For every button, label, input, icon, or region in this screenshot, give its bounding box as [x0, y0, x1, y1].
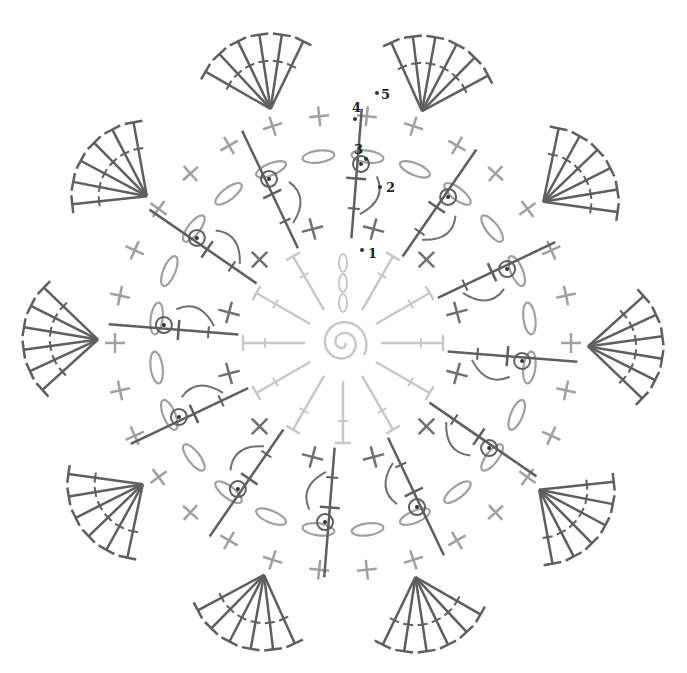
round-label-5: 5	[381, 88, 390, 101]
start-marker-icon	[364, 157, 368, 161]
start-marker-icon	[378, 185, 382, 189]
start-marker-icon	[375, 91, 379, 95]
round-4-double-crochets	[109, 109, 577, 577]
round-2-chains	[149, 149, 538, 538]
round-label-2: 2	[386, 181, 395, 194]
round-label-1: 1	[368, 247, 377, 260]
magic-ring-spiral-icon	[325, 322, 367, 358]
crochet-chart	[0, 0, 687, 673]
start-marker-icon	[360, 248, 364, 252]
round-3-single-crochets	[105, 106, 581, 579]
round-label-3: 3	[354, 143, 363, 156]
start-marker-icon	[353, 117, 357, 121]
round-label-4: 4	[352, 101, 361, 114]
